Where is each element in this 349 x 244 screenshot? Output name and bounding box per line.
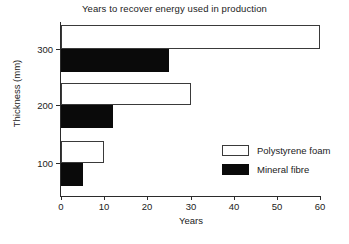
bar-mineral-fibre-100	[61, 163, 83, 186]
bar-mineral-fibre-300	[61, 49, 169, 72]
legend-swatch-polystyrene-foam	[222, 145, 249, 156]
x-axis-title: Years	[61, 215, 321, 226]
y-tick-label-300: 300	[37, 44, 53, 55]
y-tick-300	[56, 49, 61, 50]
x-tick-label-60: 60	[315, 201, 326, 212]
x-tick-0	[61, 196, 62, 200]
legend-label-mineral-fibre: Mineral fibre	[257, 165, 309, 175]
x-tick-label-20: 20	[142, 201, 153, 212]
x-tick-50	[277, 196, 278, 200]
bar-polystyrene-foam-300	[61, 25, 320, 49]
y-tick-label-100: 100	[37, 158, 53, 169]
x-tick-label-40: 40	[229, 201, 240, 212]
legend-item-mineral-fibre: Mineral fibre	[222, 162, 330, 177]
chart-legend: Polystyrene foam Mineral fibre	[222, 143, 330, 181]
legend-label-polystyrene-foam: Polystyrene foam	[257, 146, 330, 156]
x-tick-60	[320, 196, 321, 200]
legend-swatch-mineral-fibre	[222, 164, 249, 175]
x-tick-label-10: 10	[99, 201, 110, 212]
x-tick-30	[191, 196, 192, 200]
chart-title: Years to recover energy used in producti…	[0, 3, 349, 14]
bar-mineral-fibre-200	[61, 105, 113, 128]
y-tick-label-200: 200	[37, 100, 53, 111]
y-tick-200	[56, 105, 61, 106]
x-tick-10	[104, 196, 105, 200]
legend-item-polystyrene-foam: Polystyrene foam	[222, 143, 330, 158]
y-tick-100	[56, 163, 61, 164]
x-tick-label-0: 0	[58, 201, 63, 212]
x-tick-label-30: 30	[186, 201, 197, 212]
x-tick-20	[147, 196, 148, 200]
chart-container: Years to recover energy used in producti…	[0, 0, 349, 244]
y-axis-title: Thickness (mm)	[11, 34, 22, 154]
x-tick-40	[234, 196, 235, 200]
bar-polystyrene-foam-200	[61, 83, 191, 105]
bar-polystyrene-foam-100	[61, 141, 104, 163]
x-tick-label-50: 50	[272, 201, 283, 212]
